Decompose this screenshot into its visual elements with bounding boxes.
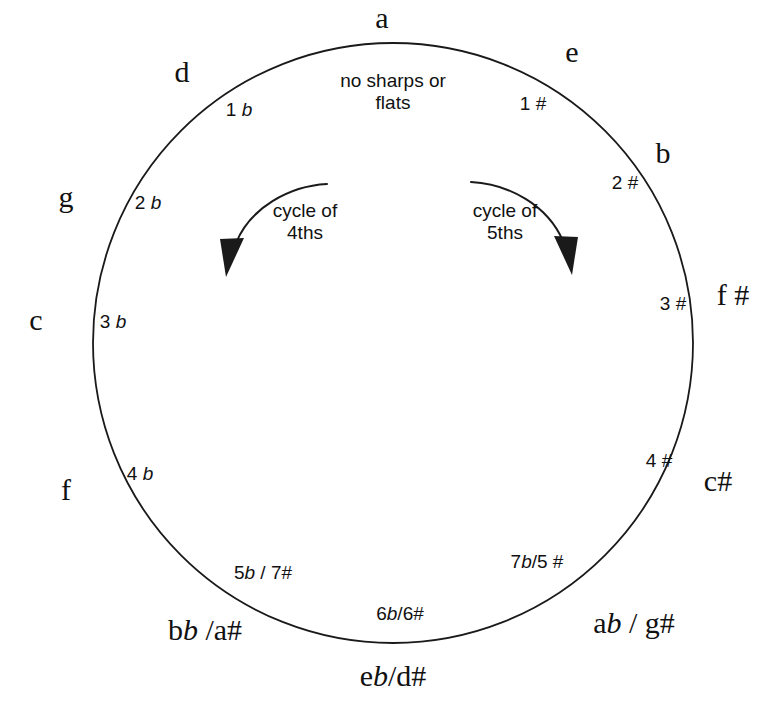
key-a: a [375, 3, 388, 33]
key-c-sharp: c# [704, 466, 732, 496]
sig-2-sharp: 2 # [612, 173, 638, 192]
key-a-flat-g-sharp: ab / g# [593, 608, 675, 638]
sig-4-sharp: 4 # [646, 451, 672, 470]
circle-of-fifths-diagram: no sharps or flats cycle of 4ths cycle o… [0, 0, 763, 717]
sig-6-flat-6-sharp: 6b/6# [376, 604, 424, 623]
key-f: f [61, 475, 71, 505]
cycle-of-fourths-label: cycle of 4ths [273, 200, 337, 245]
sig-3-sharp: 3 # [660, 294, 686, 313]
key-c: c [29, 305, 42, 335]
sig-4-flat: 4 b [127, 464, 153, 483]
key-b: b [656, 138, 671, 168]
key-b-flat-a-sharp: bb /a# [168, 615, 242, 645]
sig-3-flat: 3 b [100, 312, 126, 331]
key-d: d [175, 57, 190, 87]
key-e: e [565, 37, 578, 67]
key-f-sharp: f # [717, 280, 750, 310]
cycle-of-fifths-label: cycle of 5ths [473, 200, 537, 245]
key-g: g [59, 182, 74, 212]
sig-2-flat: 2 b [135, 193, 161, 212]
sig-1-flat: 1 b [226, 100, 252, 119]
circle-outline [93, 43, 693, 643]
sig-1-sharp: 1 # [520, 94, 546, 113]
sig-5-flat-7-sharp: 5b / 7# [234, 563, 292, 582]
center-note-no-sharps-or-flats: no sharps or flats [340, 70, 446, 115]
sig-7-flat-5-sharp: 7b/5 # [511, 552, 564, 571]
key-e-flat-d-sharp: eb/d# [360, 661, 427, 691]
